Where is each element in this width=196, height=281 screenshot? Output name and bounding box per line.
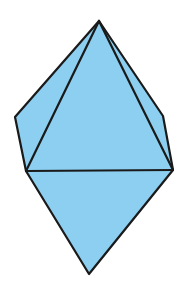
solid-fill xyxy=(15,21,173,274)
bipyramid-diagram xyxy=(0,0,196,281)
edge-equator-front xyxy=(26,170,173,171)
